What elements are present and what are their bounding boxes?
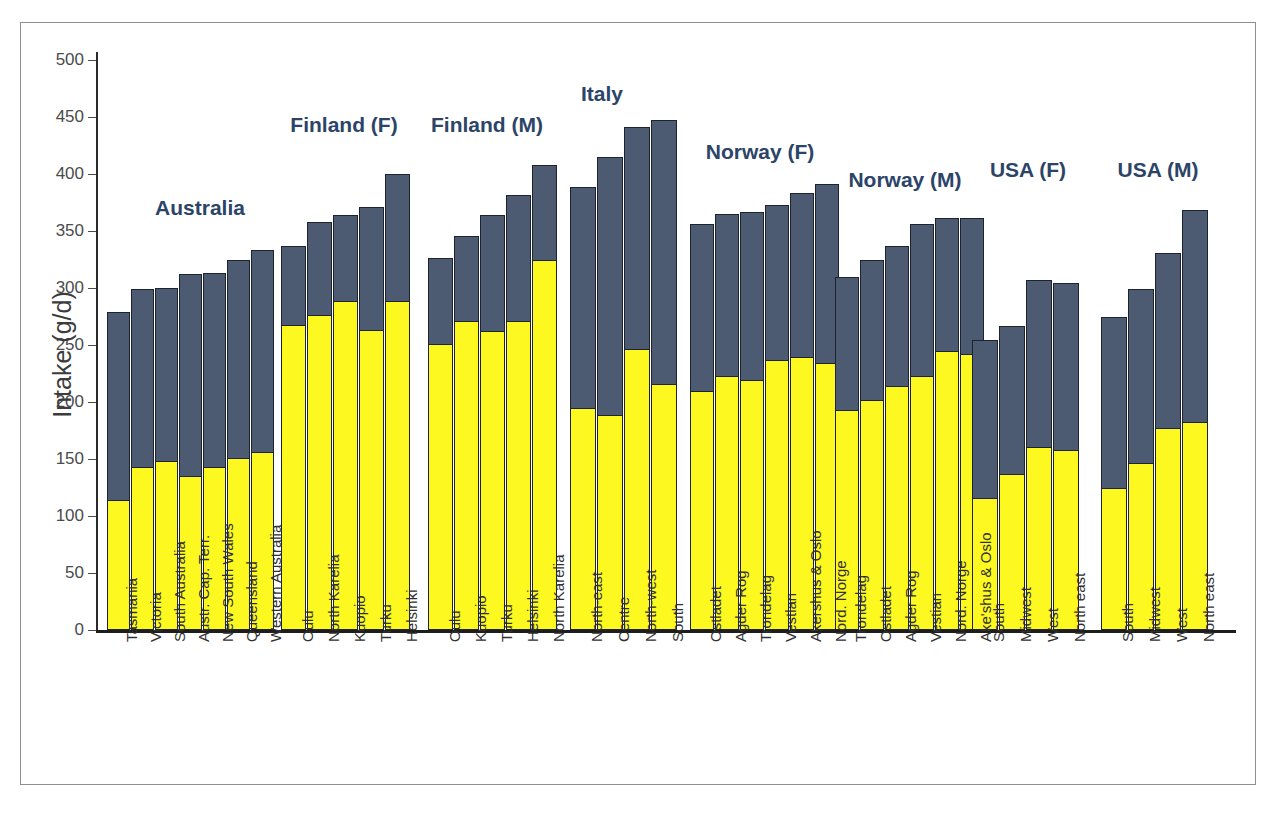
x-axis-category-label: North-west <box>643 569 658 642</box>
bar-segment-upper <box>691 225 713 393</box>
bar-segment-lower <box>360 330 383 629</box>
bar-segment-lower <box>386 301 409 629</box>
bar-segment-upper <box>791 194 813 358</box>
x-axis-category-label: Agder Rog <box>903 570 918 642</box>
bar-segment-upper <box>1027 281 1051 449</box>
stacked-bar <box>624 127 650 630</box>
x-axis-category-label: Akershus & Oslo <box>808 530 823 642</box>
stacked-bar <box>1128 289 1154 630</box>
group-title: Italy <box>581 82 623 106</box>
bar-segment-upper <box>625 128 649 350</box>
bar-segment-upper <box>716 215 738 378</box>
x-axis-category-label: Midwest <box>1018 587 1033 642</box>
x-axis-category-label: South <box>1120 603 1135 642</box>
stacked-bar <box>1155 253 1181 630</box>
stacked-bar <box>1026 280 1052 630</box>
bar-segment-upper <box>911 225 933 378</box>
y-axis-tick <box>88 573 96 574</box>
y-axis-tick-label-wrap: 350 <box>34 222 84 223</box>
y-axis-tick-label-wrap: 50 <box>34 564 84 565</box>
x-axis-category-label: Helsinki <box>404 589 419 642</box>
stacked-bar <box>999 326 1025 630</box>
y-axis-tick <box>88 174 96 175</box>
x-axis-category-label: West <box>1174 608 1189 642</box>
x-axis-category-label: North Karelia <box>326 554 341 642</box>
y-axis-tick-label-wrap: 400 <box>34 165 84 166</box>
bar-segment-upper <box>973 341 997 499</box>
bar-segment-upper <box>228 261 249 461</box>
y-axis-tick-label-wrap: 0 <box>34 621 84 622</box>
bar-segment-upper <box>334 216 357 303</box>
x-axis-category-label: Agder Rog <box>733 570 748 642</box>
y-axis-tick-label: 100 <box>40 507 84 524</box>
bar-segment-upper <box>936 219 958 352</box>
bar-segment-upper <box>507 196 530 324</box>
bar-segment-upper <box>429 259 452 346</box>
x-axis-category-label: Nord. Norge <box>833 560 848 642</box>
x-axis-category-label: Queensland <box>244 561 259 642</box>
bar-segment-upper <box>481 216 504 333</box>
y-axis-tick-label-wrap: 500 <box>34 51 84 52</box>
y-axis-tick <box>88 117 96 118</box>
x-axis-category-label: New South Wales <box>220 523 235 642</box>
stacked-bar <box>281 246 306 630</box>
x-axis-category-label: Turku <box>499 604 514 642</box>
x-axis-category-label: South <box>670 603 685 642</box>
bar-segment-upper <box>961 219 983 356</box>
bar-segment-upper <box>156 289 177 463</box>
bar-segment-upper <box>282 247 305 327</box>
stacked-bar <box>428 258 453 630</box>
bar-segment-upper <box>598 158 622 417</box>
bar-segment-upper <box>132 290 153 469</box>
x-axis-category-label: Centre <box>616 597 631 642</box>
stacked-bar <box>385 174 410 630</box>
x-axis-category-label: Ostladet <box>878 586 893 642</box>
group-title: Finland (M) <box>431 113 543 137</box>
x-axis-category-label: Vestlan <box>783 593 798 642</box>
bar-segment-upper <box>836 278 858 413</box>
x-axis-category-label: West <box>1045 608 1060 642</box>
y-axis-tick-label: 400 <box>40 165 84 182</box>
bar-segment-upper <box>108 313 129 502</box>
y-axis-tick-label-wrap: 100 <box>34 507 84 508</box>
x-axis-category-label: Midwest <box>1147 587 1162 642</box>
x-axis-category-label: Kuopio <box>352 595 367 642</box>
stacked-bar <box>690 224 714 630</box>
group-title: Finland (F) <box>290 113 397 137</box>
bar-segment-lower <box>507 321 530 629</box>
bar-segment-upper <box>1183 211 1207 423</box>
x-axis-category-label: North east <box>1072 573 1087 642</box>
figure-root: 050100150200250300350400450500 Intake (g… <box>0 0 1277 824</box>
y-axis-tick-label: 50 <box>40 564 84 581</box>
bar-segment-upper <box>571 188 595 410</box>
bar-segment-upper <box>741 213 763 383</box>
y-axis-tick-label: 0 <box>40 621 84 638</box>
x-axis-category-label: North east <box>1201 573 1216 642</box>
x-axis-category-label: Ostladet <box>708 586 723 642</box>
group-title: Norway (M) <box>848 168 961 192</box>
y-axis-tick-label: 500 <box>40 51 84 68</box>
y-axis-tick <box>88 459 96 460</box>
x-axis-category-label: Western Australia <box>268 525 283 642</box>
stacked-bar <box>597 157 623 630</box>
bar-segment-upper <box>861 261 883 402</box>
bar-segment-upper <box>204 274 225 469</box>
bar-segment-upper <box>360 208 383 332</box>
y-axis-tick <box>88 630 96 631</box>
stacked-bar <box>1101 317 1127 631</box>
bar-segment-upper <box>1000 327 1024 476</box>
y-axis-tick-label: 450 <box>40 108 84 125</box>
y-axis-tick-label-wrap: 450 <box>34 108 84 109</box>
x-axis-category-label: Trondelag <box>853 575 868 642</box>
bar-segment-lower <box>429 344 452 629</box>
x-axis-category-label: Tasmania <box>124 578 139 642</box>
x-axis-category-label: Victoria <box>148 592 163 642</box>
group-title: Norway (F) <box>706 140 815 164</box>
bar-segment-upper <box>886 247 908 388</box>
stacked-bar <box>651 120 677 630</box>
x-axis-category-label: North Karelia <box>551 554 566 642</box>
bar-segment-upper <box>180 275 201 478</box>
y-axis-tick <box>88 402 96 403</box>
stacked-bar <box>1182 210 1208 630</box>
bar-segment-lower <box>481 331 504 629</box>
